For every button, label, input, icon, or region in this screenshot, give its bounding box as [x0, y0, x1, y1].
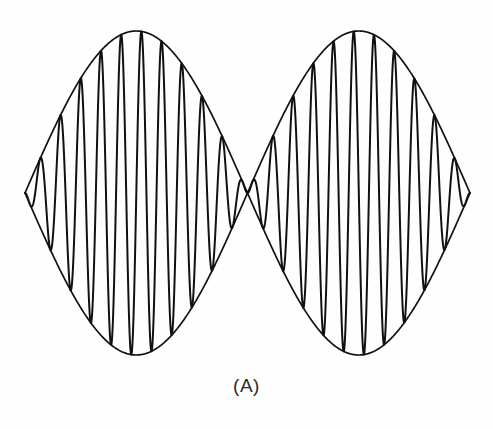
am-waveform-plot [0, 0, 493, 429]
figure-container: (A) [0, 0, 493, 429]
figure-caption: (A) [0, 374, 493, 398]
plot-background [0, 0, 493, 429]
